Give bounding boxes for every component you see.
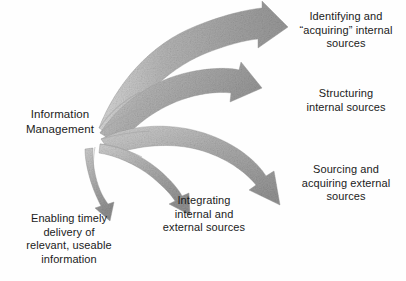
outcome-label-structuring: Structuring internal sources — [288, 87, 404, 114]
outcome-label-integrating: Integrating internal and external source… — [143, 194, 265, 235]
source-node-label: Information Management — [8, 107, 112, 136]
outcome-label-sourcing: Sourcing and acquiring external sources — [286, 163, 406, 204]
outcome-label-enabling: Enabling timely delivery of relevant, us… — [6, 212, 132, 266]
outcome-label-identifying: Identifying and “acquiring” internal sou… — [288, 10, 404, 51]
information-management-diagram: Information Management Identifying and “… — [0, 0, 406, 281]
arrow-to-enabling — [85, 148, 114, 221]
